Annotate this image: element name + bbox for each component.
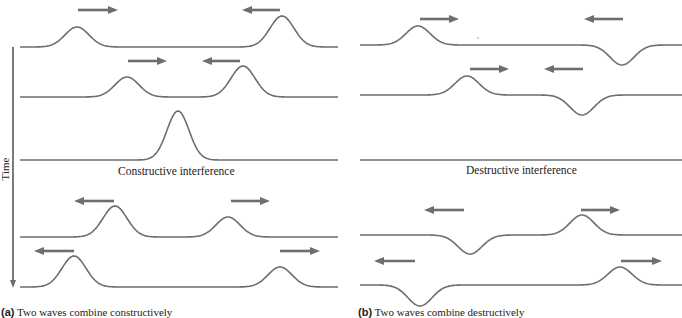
wave-row-5 xyxy=(360,267,682,306)
arrow-left-icon xyxy=(424,206,464,214)
wave-row-1 xyxy=(20,16,338,47)
arrow-left-icon xyxy=(242,6,280,14)
arrow-right-icon xyxy=(621,257,662,265)
wave-row-2 xyxy=(20,66,338,97)
arrow-right-icon xyxy=(280,247,320,255)
panel-a-caption-text: Two waves combine constructively xyxy=(14,306,172,318)
constructive-interference-label: Constructive interference xyxy=(118,165,235,177)
wave-row-2 xyxy=(360,76,682,115)
panel-a-arrows xyxy=(34,6,320,255)
wave-row-4 xyxy=(360,215,682,254)
wave-interference-diagram xyxy=(0,0,682,318)
time-axis-label: Time xyxy=(0,158,11,181)
arrow-left-icon xyxy=(74,197,114,205)
panel-b-arrows xyxy=(374,15,662,265)
speck xyxy=(477,37,479,39)
destructive-interference-label: Destructive interference xyxy=(466,164,577,176)
arrow-left-icon xyxy=(34,247,74,255)
arrow-left-icon xyxy=(202,57,240,65)
wave-row-1 xyxy=(360,26,682,65)
time-axis-arrow-icon xyxy=(10,280,16,288)
arrow-right-icon xyxy=(231,197,270,205)
wave-row-4 xyxy=(20,206,338,237)
wave-row-3 xyxy=(20,111,338,160)
arrow-right-icon xyxy=(420,15,459,23)
arrow-left-icon xyxy=(374,257,415,265)
panel-a-waves xyxy=(20,16,338,287)
panel-b-caption-text: Two waves combine destructively xyxy=(372,306,524,318)
panel-a-caption-prefix: (a) xyxy=(1,306,14,318)
wave-row-5 xyxy=(20,256,338,287)
arrow-left-icon xyxy=(544,65,583,73)
arrow-right-icon xyxy=(581,206,620,214)
arrow-right-icon xyxy=(470,65,509,73)
arrow-left-icon xyxy=(584,15,623,23)
arrow-right-icon xyxy=(128,57,167,65)
arrow-right-icon xyxy=(78,6,118,14)
panel-b-caption-prefix: (b) xyxy=(358,306,372,318)
panel-a-caption: (a) Two waves combine constructively xyxy=(1,306,172,318)
panel-b-caption: (b) Two waves combine destructively xyxy=(358,306,524,318)
